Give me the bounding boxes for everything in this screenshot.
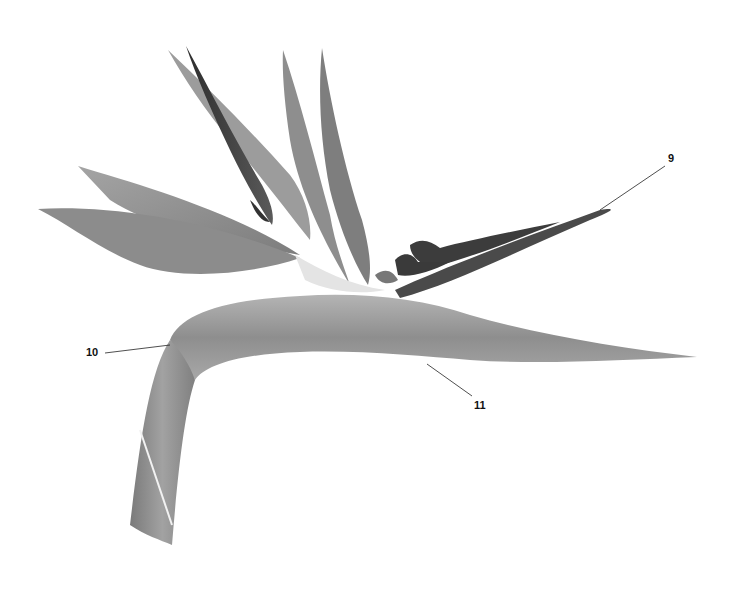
stalk [130,340,195,545]
callout-label-10: 10 [86,347,98,358]
callout-label-9: 9 [668,153,674,164]
leader-line-9 [600,166,665,210]
spathe [170,295,697,380]
right-petals [375,209,611,298]
callout-label-11: 11 [474,400,486,411]
left-sepals [38,166,300,274]
bird-of-paradise-illustration [0,0,730,590]
leader-line-11 [427,364,472,396]
leader-line-10 [105,345,170,353]
